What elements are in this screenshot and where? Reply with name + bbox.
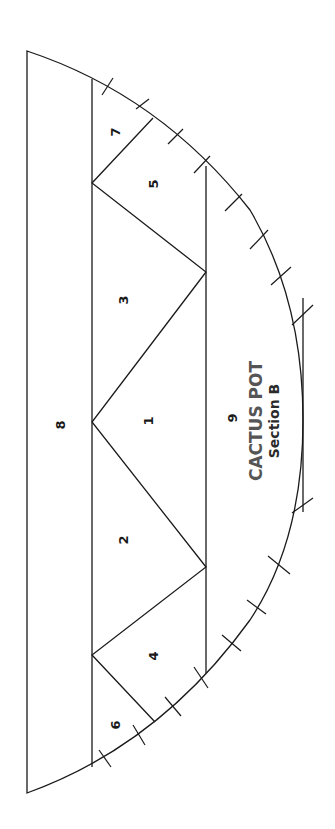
piece-label-1: 1 (141, 416, 156, 425)
pattern-subtitle: Section B (266, 384, 282, 459)
piece-label-9: 9 (225, 413, 240, 422)
piece-label-3: 3 (116, 295, 131, 304)
piece-label-8: 8 (53, 420, 68, 429)
piece-label-7: 7 (108, 127, 123, 136)
piece-label-5: 5 (146, 179, 161, 188)
piece-label-6: 6 (108, 720, 123, 729)
piece-label-2: 2 (116, 535, 131, 544)
cactus-pot-section-b-diagram: 1 2 3 4 5 6 7 8 9 CACTUS POT Section B (0, 0, 335, 829)
piece-label-4: 4 (146, 651, 161, 660)
pattern-title: CACTUS POT (246, 361, 266, 482)
